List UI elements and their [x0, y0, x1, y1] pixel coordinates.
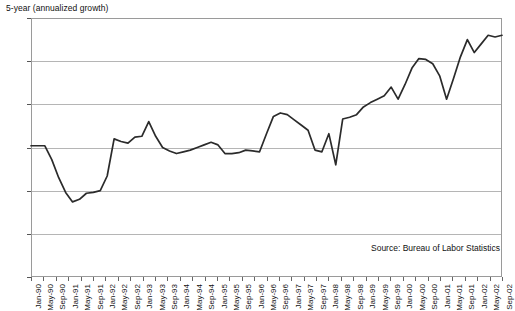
x-axis-tick-label: May-92 — [121, 284, 129, 311]
x-axis-tick-mark — [490, 277, 491, 281]
x-axis-tick-mark — [155, 277, 156, 281]
x-axis-tick-mark — [403, 277, 404, 281]
x-axis-tick-label: Jan-95 — [221, 284, 229, 308]
x-axis-tick-label: Jan-91 — [72, 284, 80, 308]
x-axis-tick-label: Sep-90 — [59, 284, 67, 310]
x-axis-tick-mark — [43, 277, 44, 281]
x-axis-tick-label: May-97 — [307, 284, 315, 311]
x-axis-tick-label: Sep-02 — [506, 284, 514, 310]
x-axis-tick-label: Sep-01 — [468, 284, 476, 310]
x-axis-tick-label: Sep-95 — [245, 284, 253, 310]
x-axis-tick-label: May-96 — [270, 284, 278, 311]
x-axis-tick-mark — [415, 277, 416, 281]
x-axis-tick-mark — [328, 277, 329, 281]
x-axis-tick-label: May-98 — [344, 284, 352, 311]
x-axis-tick-mark — [205, 277, 206, 281]
x-axis-tick-label: Jan-99 — [369, 284, 377, 308]
x-axis-tick-mark — [242, 277, 243, 281]
x-axis-tick-label: Jan-01 — [444, 284, 452, 308]
x-axis-tick-mark — [254, 277, 255, 281]
source-note: Source: Bureau of Labor Statistics — [371, 243, 500, 253]
x-axis-tick-label: Jan-96 — [258, 284, 266, 308]
x-axis-tick-mark — [56, 277, 57, 281]
x-axis-tick-mark — [192, 277, 193, 281]
x-axis-tick-label: Sep-91 — [97, 284, 105, 310]
x-axis-tick-mark — [366, 277, 367, 281]
x-axis-tick-mark — [93, 277, 94, 281]
x-axis-tick-label: Jan-97 — [295, 284, 303, 308]
x-axis-tick-label: Jan-00 — [406, 284, 414, 308]
x-axis-tick-label: Jan-94 — [183, 284, 191, 308]
x-axis-tick-label: May-90 — [47, 284, 55, 311]
x-axis-tick-mark — [502, 277, 503, 281]
x-axis-tick-mark — [180, 277, 181, 281]
x-axis-tick-label: May-00 — [419, 284, 427, 311]
x-axis-tick-label: May-95 — [233, 284, 241, 311]
x-axis-tick-label: Jan-02 — [481, 284, 489, 308]
x-axis-tick-mark — [465, 277, 466, 281]
x-axis-tick-mark — [81, 277, 82, 281]
x-axis-tick-label: May-99 — [382, 284, 390, 311]
x-axis-tick-label: Sep-93 — [171, 284, 179, 310]
x-axis-tick-mark — [217, 277, 218, 281]
x-axis-tick-label: Sep-96 — [282, 284, 290, 310]
x-axis-tick-label: May-93 — [159, 284, 167, 311]
x-axis-tick-label: Jan-98 — [332, 284, 340, 308]
x-axis-tick-label: Jan-92 — [109, 284, 117, 308]
x-axis-tick-label: May-02 — [493, 284, 501, 311]
x-axis-tick-mark — [143, 277, 144, 281]
x-axis-tick-label: Sep-94 — [208, 284, 216, 310]
x-axis-tick-label: May-01 — [456, 284, 464, 311]
x-axis-tick-label: May-94 — [196, 284, 204, 311]
x-axis-tick-mark — [477, 277, 478, 281]
x-axis-tick-mark — [68, 277, 69, 281]
x-axis-tick-label: Sep-98 — [357, 284, 365, 310]
x-axis-tick-label: Sep-00 — [431, 284, 439, 310]
x-axis-tick-label: Jan-93 — [146, 284, 154, 308]
x-axis-tick-mark — [130, 277, 131, 281]
x-axis-tick-label: Sep-97 — [320, 284, 328, 310]
x-axis-tick-label: Jan-90 — [35, 284, 43, 308]
x-axis-tick-mark — [118, 277, 119, 281]
x-axis-tick-mark — [316, 277, 317, 281]
x-axis-tick-label: Sep-92 — [134, 284, 142, 310]
x-axis-tick-mark — [31, 277, 32, 281]
x-axis-tick-label: Sep-99 — [394, 284, 402, 310]
x-axis-tick-mark — [378, 277, 379, 281]
x-axis-tick-mark — [341, 277, 342, 281]
x-axis-tick-mark — [229, 277, 230, 281]
x-axis-tick-mark — [279, 277, 280, 281]
x-axis-tick-mark — [291, 277, 292, 281]
x-axis-tick-mark — [390, 277, 391, 281]
x-axis-tick-label: May-91 — [84, 284, 92, 311]
x-axis-tick-mark — [440, 277, 441, 281]
x-axis-tick-mark — [452, 277, 453, 281]
x-axis-tick-mark — [304, 277, 305, 281]
x-axis-tick-mark — [167, 277, 168, 281]
x-axis-tick-mark — [428, 277, 429, 281]
x-axis-tick-mark — [267, 277, 268, 281]
x-axis-tick-mark — [105, 277, 106, 281]
x-axis-tick-mark — [353, 277, 354, 281]
